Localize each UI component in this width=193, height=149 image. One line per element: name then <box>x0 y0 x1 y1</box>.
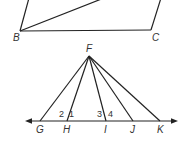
point-label-j: J <box>129 124 136 135</box>
point-label-h: H <box>63 124 71 135</box>
segment-fg <box>40 56 89 121</box>
angle-label-1: 1 <box>69 109 74 119</box>
segment-side-left <box>20 0 29 31</box>
point-label-k: K <box>157 124 165 135</box>
point-label-i: I <box>104 124 107 135</box>
arrow-right-icon <box>171 118 178 124</box>
point-label-b: B <box>13 32 20 43</box>
angle-label-4: 4 <box>108 109 113 119</box>
point-label-c: C <box>152 32 160 43</box>
geometry-diagram: BC FGHIJK2134 <box>0 0 193 149</box>
point-label-g: G <box>36 124 44 135</box>
segment-side-right <box>151 0 161 30</box>
arrow-left-icon <box>25 118 32 124</box>
parallelogram-figure <box>20 0 161 31</box>
angle-label-3: 3 <box>97 109 102 119</box>
angle-label-2: 2 <box>59 109 64 119</box>
point-label-f: F <box>86 43 93 54</box>
parallelogram-labels: BC <box>13 32 160 43</box>
segment-diagonal <box>20 0 104 31</box>
segment-side-bottom-BC <box>20 30 151 31</box>
